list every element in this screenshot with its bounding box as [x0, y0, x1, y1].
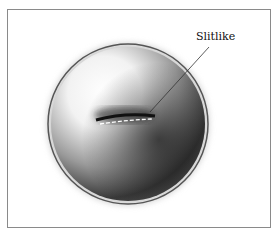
slitlike-label: Slitlike: [196, 30, 235, 43]
os-illustration: [0, 0, 279, 240]
